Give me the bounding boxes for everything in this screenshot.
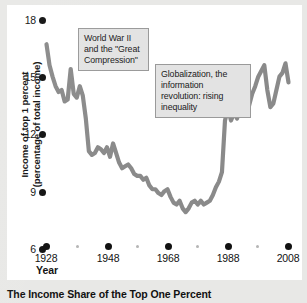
x-tick-1948: 1948 <box>88 252 128 264</box>
x-tick-marker-2008 <box>285 243 292 250</box>
y-tick-18: 18 <box>16 13 46 26</box>
x-tick-minor-1938 <box>76 245 79 248</box>
figure: 18 15 12 9 6 Income of top 1 percent (pe… <box>0 0 307 303</box>
x-tick-marker-1928 <box>43 243 50 250</box>
x-tick-marker-1948 <box>105 243 112 250</box>
x-tick-minor-1978 <box>196 245 199 248</box>
x-tick-marker-1968 <box>165 243 172 250</box>
y-axis-title-line2: (percentage of total income) <box>30 35 42 215</box>
x-tick-1928: 1928 <box>26 252 66 264</box>
y-axis-title: Income of top 1 percent (percentage of t… <box>19 35 42 215</box>
x-tick-2008: 2008 <box>268 252 307 264</box>
x-tick-1968: 1968 <box>148 252 188 264</box>
y-axis-title-line1: Income of top 1 percent <box>19 35 31 215</box>
annotation-globalization: Globalization, the information revolutio… <box>155 64 251 118</box>
x-tick-1988: 1988 <box>208 252 248 264</box>
annotation-wwii: World War II and the "Great Compression" <box>78 28 149 71</box>
x-axis-title: Year <box>36 264 58 276</box>
figure-caption: The Income Share of the Top One Percent <box>7 288 211 300</box>
y-tick-18-label: 18 <box>25 14 36 26</box>
y-tick-18-marker <box>39 17 46 24</box>
x-tick-minor-1998 <box>256 245 259 248</box>
x-tick-marker-1988 <box>225 243 232 250</box>
x-tick-minor-1958 <box>136 245 139 248</box>
